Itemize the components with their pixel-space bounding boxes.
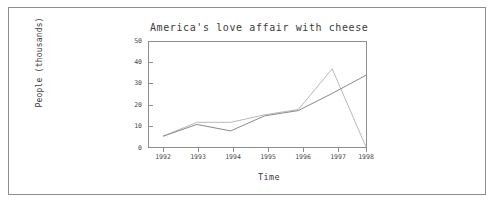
y-tick-label-0: 0 bbox=[120, 145, 142, 152]
line-chart: America's love affair with cheese People… bbox=[0, 0, 498, 205]
x-axis-label: Time bbox=[258, 172, 280, 182]
y-tick-label-40: 40 bbox=[120, 59, 142, 66]
x-tick-mark bbox=[338, 148, 339, 152]
x-tick-mark bbox=[198, 148, 199, 152]
plot-lines bbox=[148, 41, 367, 148]
x-tick-label-1992: 1992 bbox=[148, 154, 178, 161]
x-tick-mark bbox=[163, 148, 164, 152]
x-tick-mark bbox=[366, 148, 367, 152]
y-tick-label-10: 10 bbox=[120, 123, 142, 130]
x-tick-label-1993: 1993 bbox=[183, 154, 213, 161]
y-tick-label-50: 50 bbox=[120, 38, 142, 45]
x-tick-label-1994: 1994 bbox=[218, 154, 248, 161]
data-line-series-1 bbox=[163, 69, 366, 147]
x-tick-mark bbox=[303, 148, 304, 152]
x-tick-mark bbox=[268, 148, 269, 152]
chart-title: America's love affair with cheese bbox=[150, 22, 350, 33]
x-tick-label-1997: 1997 bbox=[323, 154, 353, 161]
x-tick-label-1996: 1996 bbox=[288, 154, 318, 161]
x-tick-label-1995: 1995 bbox=[253, 154, 283, 161]
y-tick-label-30: 30 bbox=[120, 80, 142, 87]
y-tick-label-20: 20 bbox=[120, 102, 142, 109]
y-axis-label: People (thousands) bbox=[35, 18, 44, 108]
data-line-series-2 bbox=[163, 75, 366, 136]
x-tick-label-1998: 1998 bbox=[351, 154, 381, 161]
x-tick-mark bbox=[233, 148, 234, 152]
